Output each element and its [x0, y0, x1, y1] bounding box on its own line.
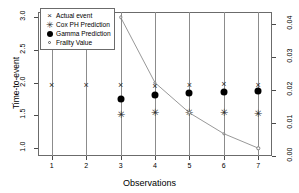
- y2-tick-label-0.01: 0.01: [286, 110, 293, 132]
- y2-tick-label-0.04: 0.04: [286, 11, 293, 33]
- marker-actual-event-obs-2: ×: [84, 80, 89, 89]
- legend-item-frailty-value: Frailty Value: [43, 38, 111, 47]
- marker-cox-ph-prediction-obs-6: ✳: [220, 108, 228, 118]
- y2-tick-label-0.03: 0.03: [286, 44, 293, 66]
- x-tick-label-6: 6: [214, 162, 234, 169]
- x-tick-mark: [258, 156, 259, 160]
- y2-tick-mark: [272, 57, 276, 58]
- y-tick-mark: [34, 83, 38, 84]
- x-tick-label-3: 3: [111, 162, 131, 169]
- x-tick-mark: [86, 156, 87, 160]
- asterisk-icon: ✳: [43, 20, 56, 30]
- x-tick-mark: [224, 156, 225, 160]
- x-tick-label-2: 2: [76, 162, 96, 169]
- filled-circle-icon: [43, 31, 56, 37]
- chart-legend: ×Actual event✳Cox PH PredictionGamma Pre…: [40, 8, 115, 50]
- y-tick-label-1.0: 1.0: [19, 137, 26, 157]
- x-tick-label-1: 1: [42, 162, 62, 169]
- marker-gamma-prediction-obs-3: [117, 96, 124, 103]
- chart-canvas: 1.01.52.02.53.0 0.000.010.020.030.04 123…: [0, 0, 299, 193]
- marker-gamma-prediction-obs-4: [152, 92, 159, 99]
- x-tick-mark: [52, 156, 53, 160]
- x-tick-mark: [189, 156, 190, 160]
- marker-gamma-prediction-obs-7: [255, 88, 262, 95]
- open-circle-icon: [43, 41, 56, 44]
- y2-tick-mark: [272, 24, 276, 25]
- x-tick-label-7: 7: [248, 162, 268, 169]
- marker-actual-event-obs-5: ×: [187, 80, 192, 89]
- x-tick-label-5: 5: [179, 162, 199, 169]
- x-tick-label-4: 4: [145, 162, 165, 169]
- legend-label: Gamma Prediction: [56, 29, 111, 38]
- marker-cox-ph-prediction-obs-7: ✳: [254, 109, 262, 119]
- y2-tick-mark: [272, 123, 276, 124]
- marker-actual-event-obs-6: ×: [221, 80, 226, 89]
- y-tick-mark: [34, 17, 38, 18]
- legend-item-gamma-prediction: Gamma Prediction: [43, 29, 111, 38]
- marker-gamma-prediction-obs-5: [186, 90, 193, 97]
- y-tick-mark: [34, 148, 38, 149]
- x-axis-title: Observations: [0, 178, 299, 188]
- y2-tick-label-0.00: 0.00: [286, 144, 293, 166]
- marker-cox-ph-prediction-obs-3: ✳: [117, 110, 125, 120]
- x-tick-mark: [121, 156, 122, 160]
- x-tick-mark: [155, 156, 156, 160]
- marker-cox-ph-prediction-obs-4: ✳: [151, 108, 159, 118]
- y2-tick-label-0.02: 0.02: [286, 77, 293, 99]
- y-tick-mark: [34, 115, 38, 116]
- marker-gamma-prediction-obs-6: [220, 88, 227, 95]
- legend-label: Actual event: [56, 11, 92, 20]
- legend-item-cox-ph-prediction: ✳Cox PH Prediction: [43, 20, 111, 29]
- marker-actual-event-obs-1: ×: [49, 80, 54, 89]
- y2-tick-mark: [272, 156, 276, 157]
- y-tick-label-3.0: 3.0: [19, 6, 26, 26]
- y-tick-mark: [34, 50, 38, 51]
- legend-label: Frailty Value: [56, 38, 92, 47]
- y2-tick-mark: [272, 90, 276, 91]
- marker-actual-event-obs-3: ×: [118, 80, 123, 89]
- legend-label: Cox PH Prediction: [56, 20, 110, 29]
- y-axis-title: Time-to-event: [11, 43, 21, 123]
